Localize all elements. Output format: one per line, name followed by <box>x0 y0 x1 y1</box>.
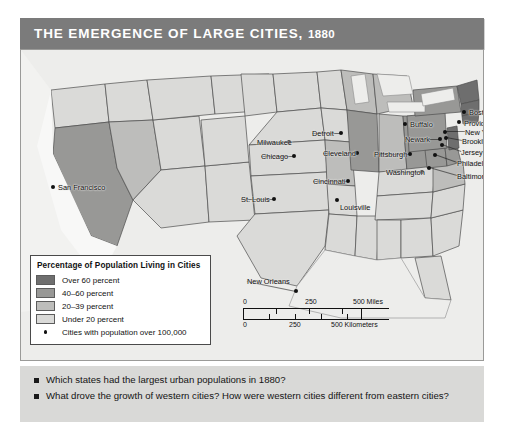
title-main: THE EMERGENCE OF LARGE CITIES, <box>34 26 303 41</box>
city-label: Cleveland <box>323 150 356 157</box>
question-item: What drove the growth of western cities?… <box>34 389 470 402</box>
city-dot[interactable] <box>408 152 412 156</box>
page-title: THE EMERGENCE OF LARGE CITIES, 1880 <box>34 26 335 41</box>
city-dot[interactable] <box>462 110 466 114</box>
bullet-icon <box>34 378 39 383</box>
city-label: Newark <box>405 136 430 143</box>
legend-class-label: Under 20 percent <box>62 315 124 324</box>
city-dot[interactable] <box>294 289 298 293</box>
city-dot[interactable] <box>339 131 343 135</box>
city-dot[interactable] <box>51 185 55 189</box>
questions-panel: Which states had the largest urban popul… <box>20 366 484 422</box>
city-dot[interactable] <box>457 120 461 124</box>
legend-swatch <box>36 288 55 298</box>
city-label: Providence <box>464 120 484 127</box>
city-dot-icon <box>36 330 55 334</box>
bullet-icon <box>34 394 39 399</box>
city-dot[interactable] <box>438 137 442 141</box>
question-text: What drove the growth of western cities?… <box>46 389 449 402</box>
city-dot[interactable] <box>292 154 296 158</box>
city-dot[interactable] <box>427 166 431 170</box>
map-legend: Percentage of Population Living in Citie… <box>30 255 211 345</box>
city-dot[interactable] <box>272 197 276 201</box>
city-leader-line <box>445 131 465 132</box>
legend-class-row: 40–60 percent <box>36 287 205 299</box>
city-label: Baltimore <box>457 173 484 180</box>
city-label: Philadelphia <box>457 160 484 167</box>
city-dot[interactable] <box>444 136 448 140</box>
scale-kilometers-labels: 0 250 500 Kilometers <box>243 321 389 331</box>
map-title-bar: THE EMERGENCE OF LARGE CITIES, 1880 <box>20 18 484 49</box>
question-item: Which states had the largest urban popul… <box>34 373 470 386</box>
city-label: New Orleans <box>247 278 290 285</box>
legend-swatch <box>36 301 55 311</box>
scale-km-tick-0: 0 <box>243 321 247 328</box>
city-label: Brooklyn <box>462 138 484 145</box>
legend-city-key-row: Cities with population over 100,000 <box>36 326 205 338</box>
city-dot[interactable] <box>440 143 444 147</box>
scale-miles-tick-0: 0 <box>243 298 247 305</box>
scale-miles-tick-500: 500 Miles <box>353 298 383 305</box>
city-label: Chicago <box>261 153 288 160</box>
city-label: Washington <box>386 169 425 176</box>
city-label: New York <box>465 129 484 136</box>
title-year: 1880 <box>308 28 335 40</box>
map-page: THE EMERGENCE OF LARGE CITIES, 1880 .st{… <box>0 0 506 442</box>
map-canvas[interactable]: .st{stroke:#4d4d4d;stroke-width:.7;} .c6… <box>20 49 484 361</box>
legend-swatch <box>36 275 55 285</box>
scale-miles-labels: 0 250 500 Miles <box>243 298 389 308</box>
legend-class-list: Over 60 percent40–60 percent20–39 percen… <box>36 274 205 325</box>
scale-km-tick-500: 500 Kilometers <box>331 321 378 328</box>
city-label: Milwaukee <box>257 139 292 146</box>
legend-class-row: Under 20 percent <box>36 313 205 325</box>
city-dot[interactable] <box>443 130 447 134</box>
city-dot[interactable] <box>346 179 350 183</box>
city-label: Detroit <box>312 130 334 137</box>
scale-bar-kilometers <box>243 314 389 320</box>
city-dot[interactable] <box>403 122 407 126</box>
scale-km-tick-250: 250 <box>289 321 301 328</box>
map-scale: 0 250 500 Miles 0 250 500 Kilometers <box>243 298 389 331</box>
questions-list: Which states had the largest urban popul… <box>34 373 470 402</box>
legend-class-label: 40–60 percent <box>62 289 113 298</box>
legend-class-row: 20–39 percent <box>36 300 205 312</box>
legend-class-label: 20–39 percent <box>62 302 113 311</box>
question-text: Which states had the largest urban popul… <box>46 373 285 386</box>
city-label: St. Louis <box>241 196 270 203</box>
scale-miles-tick-250: 250 <box>305 298 317 305</box>
city-label: San Francisco <box>58 184 105 191</box>
city-label: Pittsburgh <box>374 151 407 158</box>
city-label: Louisville <box>340 204 370 211</box>
city-label: Boston <box>469 109 484 116</box>
legend-city-key-label: Cities with population over 100,000 <box>62 328 187 337</box>
city-label: Cincinnati <box>313 178 345 185</box>
city-label: Jersey City <box>461 149 484 156</box>
city-dot[interactable] <box>433 153 437 157</box>
legend-class-row: Over 60 percent <box>36 274 205 286</box>
legend-class-label: Over 60 percent <box>62 276 119 285</box>
legend-title: Percentage of Population Living in Citie… <box>37 261 205 270</box>
city-dot[interactable] <box>335 198 339 202</box>
city-label: Buffalo <box>410 121 433 128</box>
legend-swatch <box>36 314 55 324</box>
